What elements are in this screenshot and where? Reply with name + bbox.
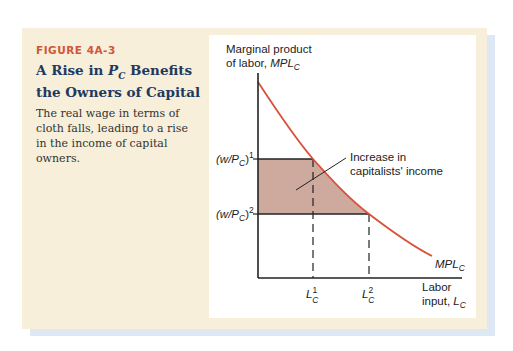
y-tick-label-1: (w/PC)1 — [216, 150, 254, 168]
y-axis-label-line1: Marginal product — [226, 43, 312, 55]
curve-label: MPLC — [435, 258, 466, 273]
chart-svg: Marginal product of labor, MPLC (w/PC)1 … — [0, 0, 513, 351]
annotation-line2: capitalists' income — [350, 165, 443, 177]
x-tick-label-1: L1C — [306, 285, 319, 305]
x-axis-label-line1: Labor — [422, 281, 452, 293]
x-axis-label-line2: input, LC — [422, 295, 467, 310]
annotation-line1: Increase in — [350, 151, 406, 163]
y-tick-label-2: (w/PC)2 — [216, 205, 254, 223]
x-tick-label-2: L2C — [362, 285, 375, 305]
y-axis-label-line2: of labor, MPLC — [226, 57, 301, 72]
